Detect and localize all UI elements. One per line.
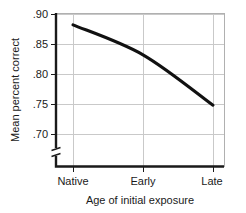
y-axis-title: Mean percent correct: [9, 38, 21, 142]
x-axis-title: Age of initial exposure: [86, 194, 194, 206]
x-tick-label-early: Early: [130, 175, 156, 187]
x-tick-label-late: Late: [201, 175, 222, 187]
y-tick-label-75: .75: [33, 98, 48, 110]
y-tick-label-90: .90: [33, 8, 48, 20]
y-tick-label-70: .70: [33, 128, 48, 140]
y-axis-break-icon: [52, 148, 61, 157]
x-tick-label-native: Native: [57, 175, 88, 187]
y-tick-label-85: .85: [33, 38, 48, 50]
y-tick-label-80: .80: [33, 68, 48, 80]
chart-container: .90 .85 .80 .75 .70 Native Early Late Ag…: [0, 0, 246, 213]
line-chart: .90 .85 .80 .75 .70 Native Early Late Ag…: [0, 0, 246, 213]
x-axis-spine: [56, 156, 224, 167]
plot-area-border: [56, 14, 225, 167]
